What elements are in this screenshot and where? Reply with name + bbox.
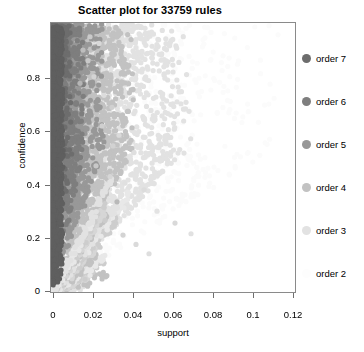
x-tick-mark-6 [293, 293, 294, 298]
legend-swatch-icon [302, 54, 311, 63]
x-tick-label-6: 0.12 [276, 309, 310, 320]
x-tick-label-0: 0 [36, 309, 70, 320]
x-axis-label: support [50, 327, 296, 338]
legend-item-order-3[interactable]: order 3 [302, 222, 346, 238]
x-tick-label-3: 0.06 [156, 309, 190, 320]
legend-item-label: order 6 [316, 96, 346, 107]
legend-item-label: order 3 [316, 225, 346, 236]
y-tick-mark-4 [45, 78, 50, 79]
legend-swatch-icon [302, 183, 311, 192]
y-tick-label-1: 0.2 [14, 232, 40, 243]
y-tick-mark-3 [45, 131, 50, 132]
y-tick-mark-2 [45, 185, 50, 186]
y-tick-label-2: 0.4 [14, 179, 40, 190]
x-tick-mark-3 [173, 293, 174, 298]
legend-swatch-icon [302, 226, 311, 235]
legend-item-label: order 5 [316, 139, 346, 150]
scatter-points-layer [51, 23, 295, 292]
x-tick-mark-2 [133, 293, 134, 298]
x-tick-mark-5 [253, 293, 254, 298]
x-tick-mark-4 [213, 293, 214, 298]
x-tick-label-4: 0.08 [196, 309, 230, 320]
y-axis-label: confidence [16, 101, 27, 191]
y-tick-label-3: 0.6 [14, 125, 40, 136]
x-tick-mark-1 [93, 293, 94, 298]
x-tick-label-1: 0.02 [76, 309, 110, 320]
y-tick-label-4: 0.8 [14, 72, 40, 83]
x-tick-mark-0 [53, 293, 54, 298]
legend-swatch-icon [302, 140, 311, 149]
legend-item-order-4[interactable]: order 4 [302, 179, 346, 195]
legend-swatch-icon [302, 97, 311, 106]
legend-item-label: order 4 [316, 182, 346, 193]
y-tick-label-0: 0 [14, 285, 40, 296]
legend-item-order-6[interactable]: order 6 [302, 93, 346, 109]
legend-item-order-7[interactable]: order 7 [302, 50, 346, 66]
y-tick-mark-0 [45, 291, 50, 292]
legend-swatch-icon [302, 269, 311, 278]
y-tick-mark-1 [45, 238, 50, 239]
legend-item-order-2[interactable]: order 2 [302, 265, 346, 281]
legend-item-order-5[interactable]: order 5 [302, 136, 346, 152]
x-tick-label-5: 0.1 [236, 309, 270, 320]
chart-title: Scatter plot for 33759 rules [0, 4, 300, 16]
x-tick-label-2: 0.04 [116, 309, 150, 320]
legend-item-label: order 2 [316, 268, 346, 279]
legend-item-label: order 7 [316, 53, 346, 64]
scatter-plot-figure: Scatter plot for 33759 rules confidence … [0, 0, 364, 352]
plot-area [50, 22, 296, 293]
legend: order 7order 6order 5order 4order 3order… [302, 22, 364, 293]
